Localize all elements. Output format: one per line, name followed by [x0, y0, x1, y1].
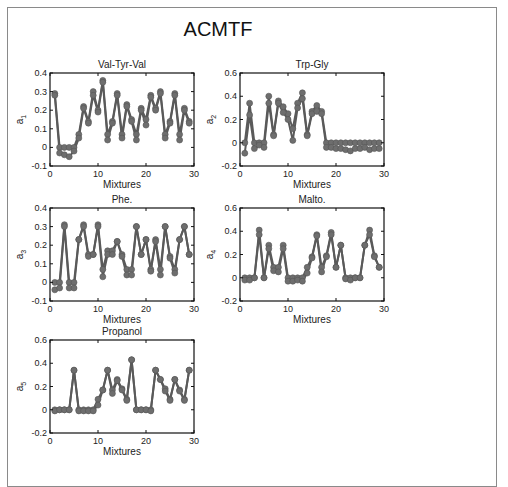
data-point	[177, 237, 183, 243]
data-point	[76, 237, 82, 243]
data-point	[95, 396, 101, 402]
data-point	[114, 378, 120, 384]
data-point	[57, 285, 63, 291]
data-point	[172, 270, 178, 276]
y-tick-label: 0	[42, 405, 47, 415]
subplot-title: Malto.	[298, 194, 325, 205]
data-point	[314, 103, 320, 109]
y-tick-label: 0.2	[34, 240, 47, 250]
y-axis-label: a4	[204, 250, 217, 260]
x-tick-label: 10	[93, 169, 103, 179]
data-point	[105, 137, 111, 143]
x-tick-label: 10	[283, 169, 293, 179]
y-tick-label: 0.2	[224, 115, 237, 125]
x-tick-label: 20	[331, 304, 341, 314]
data-point	[181, 224, 187, 230]
subplot-malto: Malto.0102030-0.200.20.40.6Mixturesa4	[204, 194, 389, 325]
y-tick-label: 0.4	[34, 203, 47, 213]
data-point	[177, 131, 183, 137]
y-tick-label: 0	[232, 273, 237, 283]
x-tick-label: 20	[331, 169, 341, 179]
data-point	[138, 252, 144, 258]
data-point	[290, 126, 296, 132]
data-point	[100, 79, 106, 85]
data-point	[157, 272, 163, 278]
data-point	[328, 232, 334, 238]
data-point	[167, 255, 173, 261]
data-point	[266, 93, 272, 99]
data-point	[143, 117, 149, 123]
data-point	[105, 131, 111, 137]
x-tick-label: 20	[141, 169, 151, 179]
data-point	[271, 133, 277, 139]
y-tick-label: -0.2	[31, 428, 47, 438]
subplot-title: Trp-Gly	[296, 59, 329, 70]
data-point	[81, 105, 87, 111]
data-point	[247, 100, 253, 106]
y-tick-label: 0.2	[224, 250, 237, 260]
data-point	[376, 264, 382, 270]
data-point	[186, 367, 192, 373]
y-tick-label: -0.2	[221, 296, 237, 306]
data-point	[71, 279, 77, 285]
y-tick-label: 0.4	[224, 91, 237, 101]
subplot-phe: Phe.0102030-0.100.10.20.30.4Mixturesa3	[14, 194, 199, 325]
data-point	[109, 391, 115, 397]
data-point	[338, 242, 344, 248]
data-point	[247, 112, 253, 118]
data-point	[181, 397, 187, 403]
data-point	[95, 109, 101, 115]
data-point	[362, 242, 368, 248]
data-point	[129, 266, 135, 272]
data-point	[66, 154, 72, 160]
data-point	[76, 135, 82, 141]
data-point	[261, 144, 267, 150]
data-point	[61, 224, 67, 230]
data-point	[153, 239, 159, 245]
data-point	[290, 137, 296, 143]
data-point	[186, 252, 192, 258]
x-tick-label: 30	[379, 304, 389, 314]
data-point	[304, 270, 310, 276]
data-point	[148, 94, 154, 100]
data-point	[376, 146, 382, 152]
x-tick-label: 20	[141, 304, 151, 314]
data-point	[261, 275, 267, 281]
data-point	[181, 107, 187, 113]
data-point	[275, 100, 281, 106]
data-point	[119, 135, 125, 141]
data-point	[71, 285, 77, 291]
subplot-title: Val-Tyr-Val	[98, 59, 146, 70]
y-tick-label: 0.4	[34, 358, 47, 368]
y-tick-label: 0.6	[34, 335, 47, 345]
x-axis-label: Mixtures	[103, 179, 141, 190]
data-point	[162, 388, 168, 394]
data-point	[109, 252, 115, 258]
y-tick-label: 0.6	[224, 203, 237, 213]
y-tick-label: 0.3	[34, 87, 47, 97]
y-tick-label: 0.1	[34, 124, 47, 134]
data-point	[323, 254, 329, 260]
x-tick-label: 30	[189, 304, 199, 314]
data-point	[299, 278, 305, 284]
data-point	[95, 224, 101, 230]
data-point	[124, 104, 130, 110]
data-point	[119, 253, 125, 259]
x-tick-label: 20	[141, 436, 151, 446]
x-tick-label: 0	[47, 169, 52, 179]
data-point	[133, 131, 139, 137]
data-point	[299, 90, 305, 96]
data-point	[333, 264, 339, 270]
y-tick-label: 0.6	[224, 68, 237, 78]
data-point	[133, 137, 139, 143]
y-tick-label: 0.2	[34, 105, 47, 115]
data-point	[177, 137, 183, 143]
y-tick-label: 0.3	[34, 222, 47, 232]
data-point	[114, 239, 120, 245]
data-point	[143, 237, 149, 243]
y-tick-label: 0.1	[34, 259, 47, 269]
y-tick-label: 0.4	[34, 68, 47, 78]
data-point	[109, 120, 115, 126]
x-tick-label: 10	[93, 436, 103, 446]
